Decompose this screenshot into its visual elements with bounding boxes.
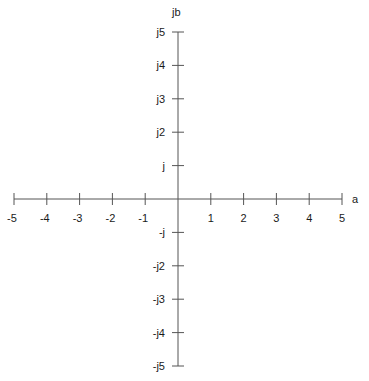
imaginary-axis-tick-label: j4 xyxy=(155,59,165,71)
real-axis-tick-label: -4 xyxy=(40,212,50,224)
imaginary-axis-tick-label: j3 xyxy=(155,93,165,105)
imaginary-axis-tick-label: -j3 xyxy=(153,293,165,305)
real-axis-tick-label: 1 xyxy=(208,212,214,224)
real-axis-tick-label: -3 xyxy=(73,212,83,224)
imaginary-axis-label: jb xyxy=(171,6,181,18)
imaginary-axis-tick-label: j2 xyxy=(155,126,165,138)
real-axis-tick-label: 2 xyxy=(241,212,247,224)
real-axis-tick-label: -2 xyxy=(106,212,116,224)
complex-plane: -5-4-3-2-112345 j5j4j3j2j-j-j2-j3-j4-j5 … xyxy=(0,0,369,381)
imaginary-axis-tick-label: -j4 xyxy=(153,327,165,339)
imaginary-axis-tick-label: j xyxy=(162,160,165,172)
real-axis-tick-label: 5 xyxy=(339,212,345,224)
real-axis-ticks: -5-4-3-2-112345 xyxy=(7,193,345,224)
imaginary-axis-tick-label: -j xyxy=(159,226,165,238)
imaginary-axis-tick-label: -j5 xyxy=(153,360,165,372)
imaginary-axis-tick-label: -j2 xyxy=(153,260,165,272)
real-axis-tick-label: 4 xyxy=(306,212,312,224)
real-axis-tick-label: -1 xyxy=(138,212,148,224)
real-axis-label: a xyxy=(352,193,359,205)
real-axis-tick-label: 3 xyxy=(273,212,279,224)
imaginary-axis-tick-label: j5 xyxy=(155,26,165,38)
real-axis-tick-label: -5 xyxy=(7,212,17,224)
